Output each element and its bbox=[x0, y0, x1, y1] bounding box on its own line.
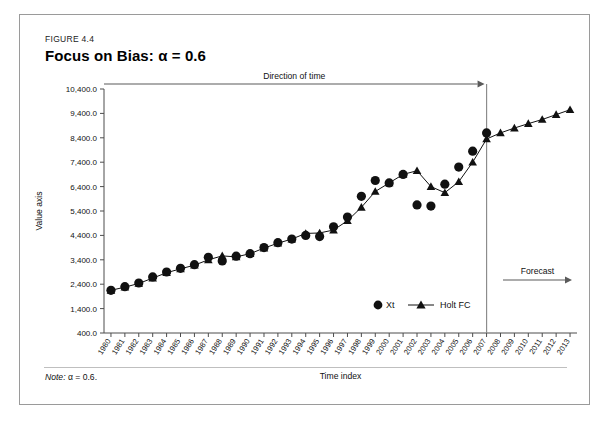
x-tick-label: 1990 bbox=[235, 337, 252, 356]
x-axis-title: Time index bbox=[320, 371, 362, 381]
x-tick-label: 1995 bbox=[305, 337, 322, 356]
forecast-label: Forecast bbox=[521, 266, 555, 276]
holt-fc-point bbox=[496, 129, 505, 137]
xt-point bbox=[176, 264, 185, 273]
forecast-arrow-head bbox=[565, 277, 572, 284]
x-tick-label: 2012 bbox=[541, 337, 558, 356]
figure-note: Note: α = 0.6. bbox=[45, 372, 97, 382]
y-tick-label: 10,400.0 bbox=[66, 85, 98, 94]
y-axis-labels: 400.01,400.02,400.03,400.04,400.05,400.0… bbox=[66, 85, 98, 338]
x-tick-label: 2008 bbox=[485, 337, 502, 356]
holt-fc-markers bbox=[107, 105, 575, 293]
xt-point bbox=[134, 278, 143, 287]
xt-point bbox=[245, 249, 254, 258]
x-tick-label: 2009 bbox=[499, 337, 516, 356]
holt-fc-point bbox=[552, 110, 561, 118]
x-tick-label: 2010 bbox=[513, 337, 530, 356]
holt-fc-point bbox=[454, 177, 463, 185]
x-tick-label: 2002 bbox=[402, 337, 419, 356]
y-tick-label: 7,400.0 bbox=[70, 158, 97, 167]
holt-fc-point bbox=[371, 187, 380, 195]
y-axis-title: Value axis bbox=[34, 191, 44, 230]
xt-point bbox=[120, 282, 129, 291]
y-axis-ticks bbox=[100, 89, 104, 333]
y-tick-label: 1,400.0 bbox=[70, 305, 97, 314]
xt-point bbox=[482, 128, 491, 137]
xt-point bbox=[204, 253, 213, 262]
direction-of-time-arrow-head bbox=[478, 81, 485, 88]
chart-canvas: 400.01,400.02,400.03,400.04,400.05,400.0… bbox=[20, 15, 591, 406]
x-axis-labels: 1980198119821983198419851986198719881989… bbox=[96, 337, 572, 356]
x-tick-label: 2007 bbox=[471, 337, 488, 356]
x-tick-label: 2011 bbox=[527, 337, 543, 356]
x-tick-label: 2003 bbox=[416, 337, 433, 356]
holt-fc-point bbox=[538, 115, 547, 123]
x-tick-label: 1998 bbox=[346, 337, 363, 356]
direction-of-time-label: Direction of time bbox=[263, 71, 325, 81]
direction-of-time-annotation: Direction of time bbox=[104, 71, 485, 87]
note-divider bbox=[44, 367, 567, 368]
x-tick-label: 1994 bbox=[291, 337, 308, 356]
holt-fc-point bbox=[413, 166, 422, 174]
holt-fc-polyline bbox=[111, 110, 570, 291]
chart-legend: Xt Holt FC bbox=[374, 300, 471, 310]
forecast-annotation: Forecast bbox=[503, 266, 572, 283]
xt-point bbox=[343, 213, 352, 222]
x-tick-label: 2004 bbox=[430, 337, 447, 356]
y-tick-label: 8,400.0 bbox=[70, 134, 97, 143]
figure-frame: FIGURE 4.4 Focus on Bias: α = 0.6 400.01… bbox=[19, 14, 590, 405]
x-tick-label: 2006 bbox=[458, 337, 475, 356]
x-tick-label: 1993 bbox=[277, 337, 294, 356]
xt-point bbox=[315, 232, 324, 241]
x-tick-label: 1984 bbox=[152, 337, 169, 356]
line-chart: 400.01,400.02,400.03,400.04,400.05,400.0… bbox=[20, 15, 591, 406]
x-tick-label: 1981 bbox=[110, 337, 127, 356]
xt-point bbox=[454, 162, 463, 171]
xt-point bbox=[399, 170, 408, 179]
xt-point bbox=[287, 234, 296, 243]
x-tick-label: 1988 bbox=[207, 337, 224, 356]
x-tick-label: 1982 bbox=[124, 337, 141, 356]
xt-point bbox=[162, 267, 171, 276]
y-tick-label: 6,400.0 bbox=[70, 183, 97, 192]
xt-point bbox=[357, 192, 366, 201]
xt-point bbox=[232, 252, 241, 261]
x-tick-label: 1980 bbox=[96, 337, 113, 356]
y-tick-label: 400.0 bbox=[77, 329, 98, 338]
xt-point bbox=[301, 231, 310, 240]
xt-point bbox=[148, 272, 157, 281]
holt-fc-point bbox=[566, 105, 575, 113]
x-tick-label: 1983 bbox=[138, 337, 155, 356]
x-tick-label: 1991 bbox=[249, 337, 266, 356]
holt-fc-point bbox=[441, 188, 450, 196]
x-tick-label: 1996 bbox=[318, 337, 335, 356]
xt-point bbox=[468, 147, 477, 156]
xt-point bbox=[329, 222, 338, 231]
legend-xt-label: Xt bbox=[386, 300, 395, 310]
x-tick-label: 1986 bbox=[179, 337, 196, 356]
y-tick-label: 9,400.0 bbox=[70, 109, 97, 118]
x-tick-label: 2005 bbox=[444, 337, 461, 356]
xt-point bbox=[440, 180, 449, 189]
y-tick-label: 3,400.0 bbox=[70, 256, 97, 265]
x-tick-label: 2013 bbox=[555, 337, 572, 356]
note-text: α = 0.6. bbox=[66, 372, 97, 382]
x-tick-label: 1985 bbox=[165, 337, 182, 356]
x-tick-label: 1997 bbox=[332, 337, 349, 356]
y-tick-label: 5,400.0 bbox=[70, 207, 97, 216]
holt-fc-point bbox=[468, 158, 477, 166]
holt-fc-line bbox=[111, 110, 570, 291]
legend-xt-marker bbox=[374, 301, 383, 310]
xt-point bbox=[273, 238, 282, 247]
y-tick-label: 2,400.0 bbox=[70, 280, 97, 289]
legend-holt-marker bbox=[416, 300, 425, 308]
x-axis-ticks bbox=[111, 333, 570, 337]
x-tick-label: 1999 bbox=[360, 337, 377, 356]
x-tick-label: 1992 bbox=[263, 337, 280, 356]
note-prefix: Note: bbox=[45, 372, 66, 382]
x-tick-label: 1989 bbox=[221, 337, 238, 356]
xt-point bbox=[218, 256, 227, 265]
xt-point bbox=[259, 243, 268, 252]
xt-markers bbox=[106, 128, 491, 295]
x-tick-label: 2000 bbox=[374, 337, 391, 356]
